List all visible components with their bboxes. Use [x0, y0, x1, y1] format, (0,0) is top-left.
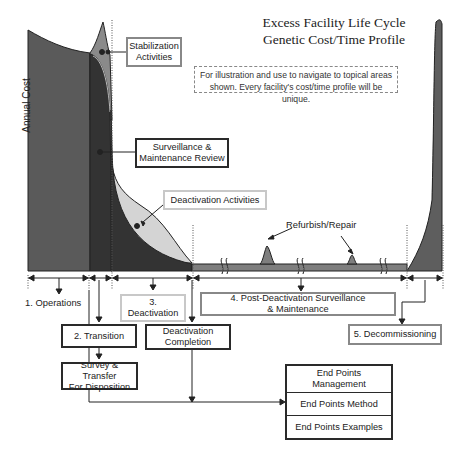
end-points-method-link[interactable]: End Points Method: [287, 393, 391, 416]
refurbish-bump-2: [347, 255, 357, 264]
post-deactivation-line-2: & Maintenance: [267, 304, 328, 315]
operations-area: [28, 30, 90, 271]
ep-examples-label: End Points Examples: [295, 422, 382, 433]
deactivation-activities-label: Deactivation Activities: [171, 195, 260, 206]
deactivation-line-1: 3.: [149, 297, 157, 308]
stabilization-line-1: Stabilization: [129, 41, 179, 52]
title-line-2: Genetic Cost/Time Profile: [244, 31, 424, 48]
deactivation-completion-line-2: Completion: [165, 337, 211, 348]
post-deactivation-line-1: 4. Post-Deactivation Surveillance: [231, 293, 366, 304]
transition-label: 2. Transition: [74, 331, 124, 342]
refurbish-bump-1: [260, 246, 275, 264]
survey-transfer-link[interactable]: Survey & Transfer For Disposition: [61, 362, 138, 390]
surveillance-maintenance-review-link[interactable]: Surveillance & Maintenance Review: [135, 138, 229, 168]
ep-method-label: End Points Method: [300, 399, 378, 410]
decommissioning-area: [407, 20, 442, 271]
deactivation-completion-link[interactable]: Deactivation Completion: [145, 324, 231, 350]
diagram-title: Excess Facility Life Cycle Genetic Cost/…: [244, 14, 424, 48]
title-line-1: Excess Facility Life Cycle: [244, 14, 424, 31]
timeline: [28, 275, 443, 281]
survey-transfer-line-1: Survey & Transfer: [63, 360, 136, 382]
stabilization-line-2: Activities: [136, 52, 172, 63]
deactivation-completion-line-1: Deactivation: [163, 326, 214, 337]
operations-link[interactable]: 1. Operations: [25, 297, 81, 308]
note-line-1: For illustration and use to navigate to …: [195, 69, 397, 81]
y-axis-label: Annual Cost: [21, 76, 32, 136]
surveillance-band: [192, 264, 407, 271]
decommissioning-link[interactable]: 5. Decommissioning: [348, 324, 442, 345]
note-line-2: shown. Every facility's cost/time profil…: [195, 81, 397, 105]
decommissioning-label: 5. Decommissioning: [354, 329, 437, 340]
post-deactivation-link[interactable]: 4. Post-Deactivation Surveillance & Main…: [200, 292, 396, 316]
end-points-examples-link[interactable]: End Points Examples: [287, 416, 391, 438]
refurbish-repair-label: Refurbish/Repair: [286, 219, 356, 230]
survey-transfer-line-2: For Disposition: [69, 382, 130, 393]
deactivation-line-2: Deactivation: [128, 308, 179, 319]
surveillance-review-line-1: Surveillance &: [153, 142, 212, 153]
ep-management-line-1: End Points: [317, 368, 361, 379]
end-points-group: End Points Management End Points Method …: [285, 364, 393, 440]
surveillance-review-line-2: Maintenance Review: [139, 153, 224, 164]
end-points-management-link[interactable]: End Points Management: [287, 366, 391, 393]
deactivation-activities-link[interactable]: Deactivation Activities: [163, 190, 267, 210]
deactivation-link[interactable]: 3. Deactivation: [120, 294, 186, 322]
transition-link[interactable]: 2. Transition: [61, 324, 137, 348]
illustration-note: For illustration and use to navigate to …: [194, 66, 398, 93]
ep-management-line-2: Management: [312, 379, 366, 390]
stabilization-activities-link[interactable]: Stabilization Activities: [126, 37, 182, 67]
